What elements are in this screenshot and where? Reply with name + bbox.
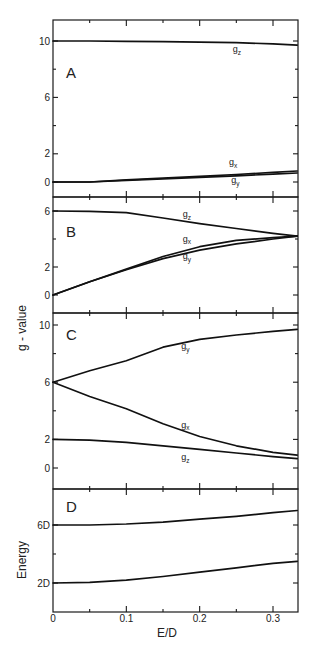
y-tick-label: 0 bbox=[44, 290, 50, 301]
y-tick-label: 2D bbox=[37, 578, 50, 589]
curve-gy bbox=[53, 329, 297, 382]
panel-letter: D bbox=[66, 498, 77, 515]
y-tick-label: 0 bbox=[44, 177, 50, 188]
curve-label-gy: gy bbox=[231, 175, 240, 188]
y-tick-label: 10 bbox=[39, 320, 51, 331]
panel-letter: B bbox=[66, 223, 76, 240]
y-tick-label: 6 bbox=[44, 206, 50, 217]
x-tick-label: 0.1 bbox=[119, 613, 133, 624]
curve-label-gz: gz bbox=[233, 44, 241, 56]
y-tick-label: 6 bbox=[44, 92, 50, 103]
curve-gy bbox=[53, 236, 297, 295]
panel-c: 02610Cgygxgz bbox=[39, 313, 298, 489]
y-tick-label: 0 bbox=[44, 463, 50, 474]
curve-gz bbox=[53, 41, 297, 45]
panel-letter: C bbox=[66, 326, 77, 343]
curve-label-gy: gy bbox=[181, 341, 190, 354]
x-axis-title: E/D bbox=[157, 626, 177, 640]
panel-d: 2D6DD bbox=[37, 489, 298, 612]
y-tick-label: 6D bbox=[37, 520, 50, 531]
y-axis-title-g-value: g - value bbox=[15, 305, 29, 351]
x-tick-label: 0.2 bbox=[193, 613, 207, 624]
panels: 02610Agzgxgy026Bgzgxgy02610Cgygxgz2D6DD0… bbox=[37, 20, 298, 624]
curve-gx bbox=[53, 171, 297, 182]
curve-label-gx: gx bbox=[183, 234, 192, 246]
y-axis-title-energy: Energy bbox=[15, 541, 29, 579]
panel-frame bbox=[53, 313, 298, 489]
curve-gz bbox=[53, 211, 297, 236]
panel-frame bbox=[53, 20, 298, 197]
curve-gx bbox=[53, 236, 297, 295]
curve-label-gz: gz bbox=[183, 209, 191, 221]
panel-a: 02610Agzgxgy bbox=[39, 20, 298, 197]
curve-label-gx: gx bbox=[181, 420, 190, 432]
panel-letter: A bbox=[66, 64, 76, 81]
curve-gz bbox=[53, 439, 297, 458]
y-tick-label: 2 bbox=[44, 148, 50, 159]
curve-upper-level bbox=[53, 511, 297, 526]
curve-label-gz: gz bbox=[181, 452, 189, 464]
y-tick-label: 10 bbox=[39, 36, 51, 47]
y-tick-label: 6 bbox=[44, 377, 50, 388]
curve-gx bbox=[53, 382, 297, 455]
x-tick-label: 0 bbox=[50, 613, 56, 624]
figure: 02610Agzgxgy026Bgzgxgy02610Cgygxgz2D6DD0… bbox=[0, 0, 313, 654]
panel-b: 026Bgzgxgy bbox=[44, 197, 298, 313]
panel-frame bbox=[53, 489, 298, 612]
y-tick-label: 2 bbox=[44, 434, 50, 445]
curve-label-gx: gx bbox=[229, 157, 238, 169]
x-tick-label: 0.3 bbox=[266, 613, 280, 624]
y-tick-label: 2 bbox=[44, 262, 50, 273]
curve-lower-level bbox=[53, 561, 297, 583]
